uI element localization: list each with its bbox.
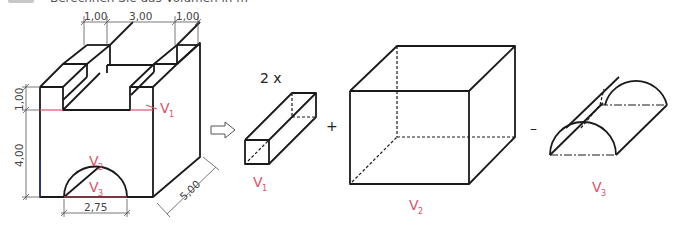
- plus-operator: +: [326, 118, 338, 134]
- v3-half-cylinder: [550, 77, 667, 155]
- dim-top-left: 1,00: [84, 10, 107, 22]
- v2-box: [350, 46, 515, 184]
- minus-operator: –: [530, 120, 537, 136]
- svg-text:1: 1: [262, 184, 267, 193]
- dim-left-lower: 4,00: [13, 144, 25, 167]
- multiplier-label: 2 x: [260, 70, 282, 86]
- composite-body: [40, 22, 200, 197]
- dim-arch-width: 2,75: [84, 201, 107, 213]
- dim-top-middle: 3,00: [129, 10, 152, 22]
- volume-diagram: .ln { stroke:#1a1a1a; stroke-width:1.8; …: [0, 0, 678, 231]
- svg-text:1: 1: [169, 110, 174, 119]
- svg-text:3: 3: [601, 189, 606, 198]
- dim-left-upper: 1,00: [13, 88, 25, 111]
- dim-top-right: 1,00: [176, 10, 199, 22]
- svg-text:2: 2: [98, 163, 103, 172]
- svg-text:2: 2: [418, 207, 423, 216]
- decomposition-arrow-icon: [211, 122, 235, 138]
- v1-prism: 2 x: [245, 70, 316, 164]
- dim-depth: 5,00: [177, 178, 202, 203]
- svg-text:3: 3: [98, 189, 103, 198]
